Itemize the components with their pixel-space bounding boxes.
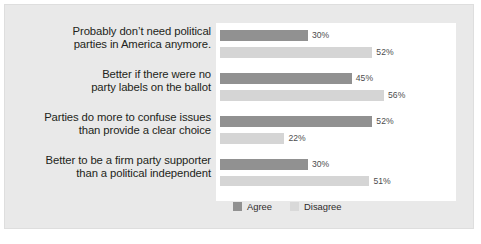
chart-figure: Probably don’t need political parties in… bbox=[4, 4, 474, 229]
bar-value-disagree-1: 56% bbox=[388, 90, 405, 101]
bar-value-disagree-0: 52% bbox=[376, 47, 393, 58]
bar-disagree-0 bbox=[220, 47, 372, 58]
legend-divider bbox=[218, 186, 456, 188]
legend-swatch-disagree-icon bbox=[290, 202, 299, 211]
bar-agree-2 bbox=[220, 116, 372, 127]
legend-item-disagree[interactable]: Disagree bbox=[290, 201, 342, 212]
bar-agree-3 bbox=[220, 159, 308, 170]
bar-value-agree-2: 52% bbox=[376, 116, 393, 127]
bar-value-agree-1: 45% bbox=[356, 73, 373, 84]
chart-legend: Agree Disagree bbox=[218, 197, 468, 215]
legend-item-agree[interactable]: Agree bbox=[233, 201, 272, 212]
bar-value-agree-3: 30% bbox=[312, 159, 329, 170]
bar-agree-1 bbox=[220, 73, 352, 84]
bar-agree-0 bbox=[220, 30, 308, 41]
bars-layer: 30% 52% 45% 56% 52% 22% 30% 51% bbox=[5, 23, 474, 201]
bar-disagree-2 bbox=[220, 133, 284, 144]
legend-swatch-agree-icon bbox=[233, 202, 242, 211]
bar-value-disagree-2: 22% bbox=[288, 133, 305, 144]
legend-label-agree: Agree bbox=[247, 201, 272, 212]
bar-value-agree-0: 30% bbox=[312, 30, 329, 41]
bar-disagree-1 bbox=[220, 90, 384, 101]
legend-label-disagree: Disagree bbox=[304, 201, 342, 212]
